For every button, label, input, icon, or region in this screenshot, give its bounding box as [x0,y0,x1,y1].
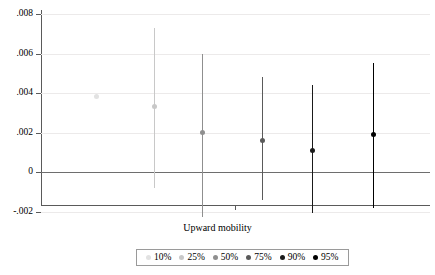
legend-label: 50% [221,253,238,263]
x-axis-title: Upward mobility [0,222,435,233]
y-axis-tick [36,172,41,173]
data-point-marker [200,130,205,135]
gridline [41,212,430,213]
legend-marker-icon [179,255,184,260]
data-point-marker [260,138,265,143]
y-axis-tick [36,54,41,55]
legend-item-95pct[interactable]: 95% [313,253,338,263]
y-axis-tick [36,93,41,94]
legend-label: 75% [254,253,271,263]
legend-item-25pct[interactable]: 25% [179,253,204,263]
y-axis-tick-label: .006 [0,49,33,59]
gridline [41,54,430,55]
plot-area [41,14,430,205]
legend-marker-icon [146,255,151,260]
y-axis-tick-label: .002 [0,128,33,138]
confidence-interval-bar [202,54,203,218]
y-axis-tick-label: .008 [0,9,33,19]
zero-reference-line [41,172,430,173]
legend-item-50pct[interactable]: 50% [213,253,238,263]
legend-label: 95% [321,253,338,263]
chart-legend: 10%25%50%75%90%95% [136,249,349,266]
x-axis-tick [235,206,236,210]
coefficient-plot: .008.006.004.0020-.002 Upward mobility 1… [0,0,435,275]
legend-marker-icon [280,255,285,260]
gridline [41,14,430,15]
legend-item-10pct[interactable]: 10% [146,253,171,263]
legend-label: 25% [187,253,204,263]
y-axis-tick-label: .004 [0,88,33,98]
legend-item-75pct[interactable]: 75% [246,253,271,263]
gridline [41,93,430,94]
y-axis-tick [36,14,41,15]
legend-marker-icon [213,255,218,260]
legend-marker-icon [246,255,251,260]
y-axis-tick-label: 0 [0,167,33,177]
legend-label: 10% [154,253,171,263]
legend-label: 90% [288,253,305,263]
legend-item-90pct[interactable]: 90% [280,253,305,263]
y-axis-tick [36,212,41,213]
y-axis-tick [36,133,41,134]
legend-marker-icon [313,255,318,260]
y-axis-tick-label: -.002 [0,207,33,217]
